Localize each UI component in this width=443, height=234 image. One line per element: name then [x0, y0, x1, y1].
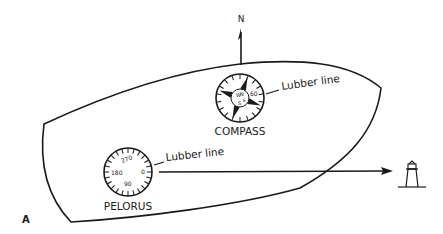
pelorus-mark-180: 180 [111, 169, 123, 176]
pelorus-mark-0: 0 [141, 168, 145, 175]
lighthouse-icon [398, 161, 426, 187]
compass-icon: W N E S 60 [212, 70, 268, 126]
north-arrow-icon [238, 28, 241, 65]
pelorus-mark-90: 90 [124, 180, 132, 187]
north-label: N [238, 14, 245, 24]
compass-mark-n: N [240, 91, 244, 97]
panel-label: A [22, 214, 30, 225]
pelorus-icon: 270 180 90 0 [104, 148, 152, 196]
pelorus-lubber-label: Lubber line [165, 145, 225, 163]
compass-mark-e: E [243, 98, 246, 103]
pelorus-lubber-line [154, 162, 164, 165]
compass-label: COMPASS [215, 125, 266, 137]
bearing-line [159, 171, 386, 172]
compass-mark-s: S [238, 100, 241, 106]
ship-outline [42, 62, 381, 222]
compass-lubber-line [266, 90, 279, 94]
pelorus-compass-diagram: N [0, 0, 443, 234]
pelorus-label: PELORUS [104, 200, 153, 212]
compass-lubber-label: Lubber line [281, 72, 341, 92]
compass-mark-60: 60 [250, 90, 258, 97]
